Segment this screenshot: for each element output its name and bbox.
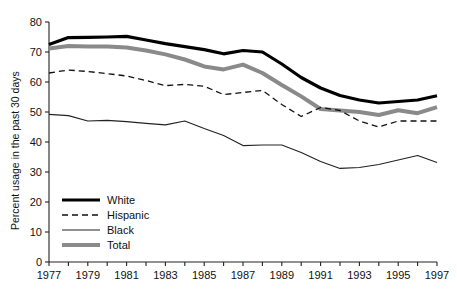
legend-label-total: Total	[107, 239, 130, 251]
x-tick-label: 1983	[153, 269, 177, 281]
x-tick-label: 1979	[76, 269, 100, 281]
y-tick-label: 70	[30, 46, 42, 58]
y-axis-ticks: 01020304050607080	[30, 16, 49, 268]
x-tick-label: 1987	[231, 269, 255, 281]
chart-legend: WhiteHispanicBlackTotal	[62, 194, 150, 251]
series-line-hispanic	[49, 70, 437, 127]
x-tick-label: 1989	[270, 269, 294, 281]
legend-label-white: White	[107, 194, 135, 206]
y-tick-label: 60	[30, 76, 42, 88]
legend-item-black[interactable]: Black	[62, 224, 134, 236]
legend-label-black: Black	[107, 224, 134, 236]
x-axis-ticks: 1977197919811983198519871989199119931995…	[37, 262, 449, 281]
chart-container: Percent usage in the past 30 days 010203…	[0, 0, 457, 301]
x-tick-label: 1981	[114, 269, 138, 281]
series-layer	[49, 36, 437, 168]
legend-item-total[interactable]: Total	[62, 239, 130, 251]
legend-label-hispanic: Hispanic	[107, 209, 150, 221]
series-line-total	[49, 46, 437, 115]
y-axis-title: Percent usage in the past 30 days	[9, 71, 21, 230]
x-tick-label: 1993	[347, 269, 371, 281]
y-axis-title-label: Percent usage in the past 30 days	[9, 71, 21, 230]
x-tick-label: 1991	[308, 269, 332, 281]
y-tick-label: 10	[30, 226, 42, 238]
legend-item-hispanic[interactable]: Hispanic	[62, 209, 150, 221]
y-tick-label: 80	[30, 16, 42, 28]
y-tick-label: 40	[30, 136, 42, 148]
x-tick-label: 1977	[37, 269, 61, 281]
x-tick-label: 1995	[386, 269, 410, 281]
line-chart: Percent usage in the past 30 days 010203…	[0, 0, 457, 301]
x-tick-label: 1997	[425, 269, 449, 281]
y-tick-label: 0	[36, 256, 42, 268]
y-tick-label: 20	[30, 196, 42, 208]
series-line-black	[49, 114, 437, 168]
y-tick-label: 30	[30, 166, 42, 178]
x-tick-label: 1985	[192, 269, 216, 281]
y-tick-label: 50	[30, 106, 42, 118]
legend-item-white[interactable]: White	[62, 194, 135, 206]
